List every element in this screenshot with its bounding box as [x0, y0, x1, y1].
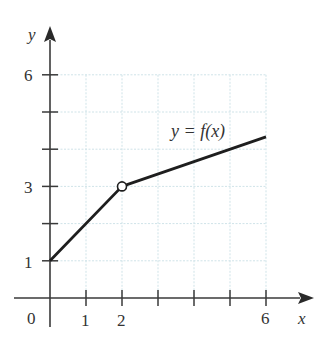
axes — [14, 26, 314, 327]
x-axis-arrow-icon — [298, 292, 314, 304]
x-tick-label-1: 1 — [81, 311, 90, 330]
open-circle-point — [118, 182, 127, 191]
grid — [50, 75, 266, 298]
curve-label: y = f(x) — [169, 121, 225, 142]
x-tick-label-6: 6 — [261, 309, 270, 328]
y-tick-label-1: 1 — [24, 253, 33, 272]
x-axis-label: x — [297, 309, 306, 328]
y-axis-arrow-icon — [44, 26, 56, 42]
x-tick-label-2: 2 — [117, 311, 126, 330]
y-tick-label-6: 6 — [24, 66, 33, 85]
y-axis-label: y — [26, 25, 36, 44]
origin-label: 0 — [27, 309, 36, 328]
ticks — [42, 75, 266, 306]
y-tick-label-3: 3 — [24, 178, 33, 197]
function-graph: y x 0 1 2 6 1 3 6 y = f(x) — [0, 0, 325, 346]
